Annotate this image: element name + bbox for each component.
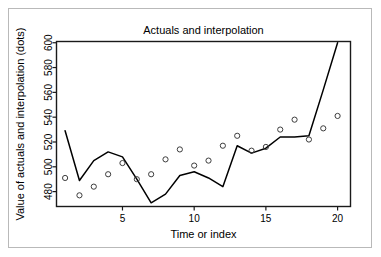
x-tick-label: 15 <box>260 213 272 224</box>
data-point <box>63 175 68 180</box>
data-point <box>292 117 297 122</box>
data-point <box>177 147 182 152</box>
x-axis-label: Time or index <box>170 228 237 240</box>
chart-screenshot: 480500520540560580600 5101520 Actuals an… <box>0 0 381 257</box>
y-tick-label: 480 <box>43 183 54 200</box>
data-point <box>278 127 283 132</box>
x-tick-label: 5 <box>120 213 126 224</box>
plot-panel <box>57 42 351 207</box>
interpolation-line <box>65 43 337 203</box>
y-tick-label: 580 <box>43 59 54 76</box>
y-tick-label: 560 <box>43 84 54 101</box>
panel-border <box>57 42 351 207</box>
data-point <box>149 172 154 177</box>
actuals-points <box>63 113 341 198</box>
y-tick-label: 500 <box>43 158 54 175</box>
y-axis-tick-labels: 480500520540560580600 <box>43 34 54 200</box>
chart-plot: 480500520540560580600 5101520 Actuals an… <box>0 0 381 257</box>
data-point <box>77 193 82 198</box>
data-point <box>106 172 111 177</box>
data-point <box>321 126 326 131</box>
data-point <box>306 137 311 142</box>
data-point <box>120 160 125 165</box>
x-tick-label: 20 <box>332 213 344 224</box>
data-point <box>163 157 168 162</box>
y-tick-label: 520 <box>43 133 54 150</box>
data-point <box>235 133 240 138</box>
y-tick-label: 540 <box>43 108 54 125</box>
data-point <box>206 158 211 163</box>
data-point <box>192 163 197 168</box>
data-point <box>335 113 340 118</box>
y-tick-label: 600 <box>43 34 54 51</box>
data-point <box>220 143 225 148</box>
x-tick-label: 10 <box>189 213 201 224</box>
chart-title: Actuals and interpolation <box>143 24 263 36</box>
y-axis-label: Value of actuals and interpolation (dots… <box>14 27 26 220</box>
x-axis-tick-labels: 5101520 <box>120 213 344 224</box>
data-point <box>91 184 96 189</box>
